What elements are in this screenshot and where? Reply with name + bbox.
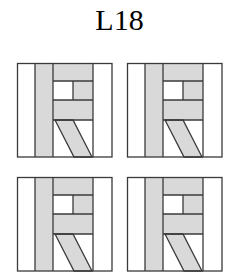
panel-bottom-left bbox=[17, 177, 113, 273]
figure-title: L18 bbox=[0, 3, 239, 37]
panel-bottom-right bbox=[127, 177, 223, 273]
panel-top-right bbox=[127, 63, 223, 159]
panel-top-left bbox=[17, 63, 113, 159]
